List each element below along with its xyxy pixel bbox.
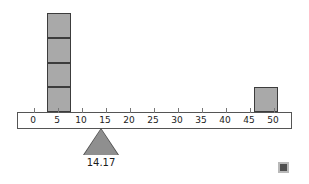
axis-label-5: 5 [54, 113, 60, 128]
block-stack-left-4 [47, 13, 71, 38]
block-stack-left-1 [47, 87, 71, 112]
axis-label-40: 40 [219, 113, 230, 128]
axis-label-0: 0 [30, 113, 36, 128]
axis-label-20: 20 [123, 113, 134, 128]
axis-label-25: 25 [147, 113, 158, 128]
block-stack-left-2 [47, 63, 71, 88]
axis-label-30: 30 [171, 113, 182, 128]
axis-label-10: 10 [75, 113, 86, 128]
corner-square-marker [278, 162, 289, 173]
fulcrum-value-label: 14.17 [87, 157, 116, 168]
figure-canvas: 05101520253035404550 14.17 [0, 0, 309, 184]
block-stack-left-3 [47, 38, 71, 63]
axis-label-45: 45 [243, 113, 254, 128]
axis-label-35: 35 [195, 113, 206, 128]
axis-label-50: 50 [267, 113, 278, 128]
axis-label-15: 15 [99, 113, 110, 128]
fulcrum-triangle [84, 129, 118, 155]
